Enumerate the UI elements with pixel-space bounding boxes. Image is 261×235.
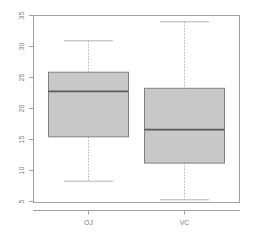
y-tick-label-25: 25	[18, 74, 25, 82]
y-tick-label-10: 10	[18, 167, 25, 175]
x-category-label-vc: VC	[180, 219, 190, 226]
y-tick-label-20: 20	[18, 105, 25, 113]
y-tick-label-5: 5	[18, 199, 25, 203]
y-tick-label-15: 15	[18, 136, 25, 144]
y-axis: 35 30 25 20 15 10 5	[18, 12, 34, 204]
box-rect-oj	[49, 72, 129, 137]
y-tick-label-30: 30	[18, 43, 25, 51]
y-tick-label-35: 35	[18, 12, 25, 20]
boxplot-canvas: 35 30 25 20 15 10 5 OJ VC	[0, 0, 261, 235]
x-axis: OJ VC	[33, 211, 240, 227]
boxplot-figure: 35 30 25 20 15 10 5 OJ VC	[0, 0, 261, 235]
box-rect-vc	[145, 88, 225, 163]
x-category-label-oj: OJ	[84, 219, 93, 226]
